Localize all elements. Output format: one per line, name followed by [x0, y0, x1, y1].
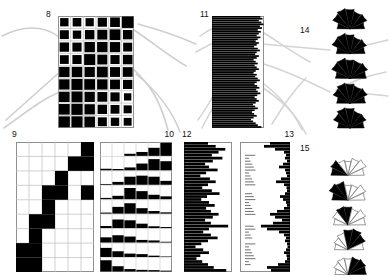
panel-11-label: 11 — [200, 10, 209, 19]
figure-canvas: 8 9 10 11 12 — [0, 0, 389, 280]
panel-10: 10 — [100, 130, 176, 276]
panel-12-label: 12 — [182, 130, 191, 139]
panel-13-label: 13 — [285, 130, 294, 139]
panel-13: 13 — [238, 130, 296, 276]
panel-15-roses — [310, 154, 386, 278]
panel-13-bars — [240, 142, 290, 272]
panel-8: 8 — [46, 8, 134, 128]
panel-8-matrix — [58, 16, 134, 128]
panel-9: 9 — [12, 130, 100, 276]
panel-15: 15 — [296, 142, 388, 278]
panel-11-bars — [212, 16, 264, 128]
panel-12-bars — [184, 142, 232, 272]
panel-14-label: 14 — [300, 26, 309, 35]
panel-11: 11 — [200, 8, 266, 130]
panel-10-matrix — [100, 142, 172, 272]
panel-15-label: 15 — [300, 144, 309, 153]
panel-9-label: 9 — [12, 130, 17, 139]
panel-9-matrix — [16, 142, 94, 272]
panel-8-label: 8 — [46, 10, 51, 19]
panel-10-label: 10 — [165, 130, 174, 139]
panel-14-roses — [314, 8, 386, 132]
panel-14: 14 — [296, 8, 388, 132]
panel-12: 12 — [182, 130, 238, 276]
